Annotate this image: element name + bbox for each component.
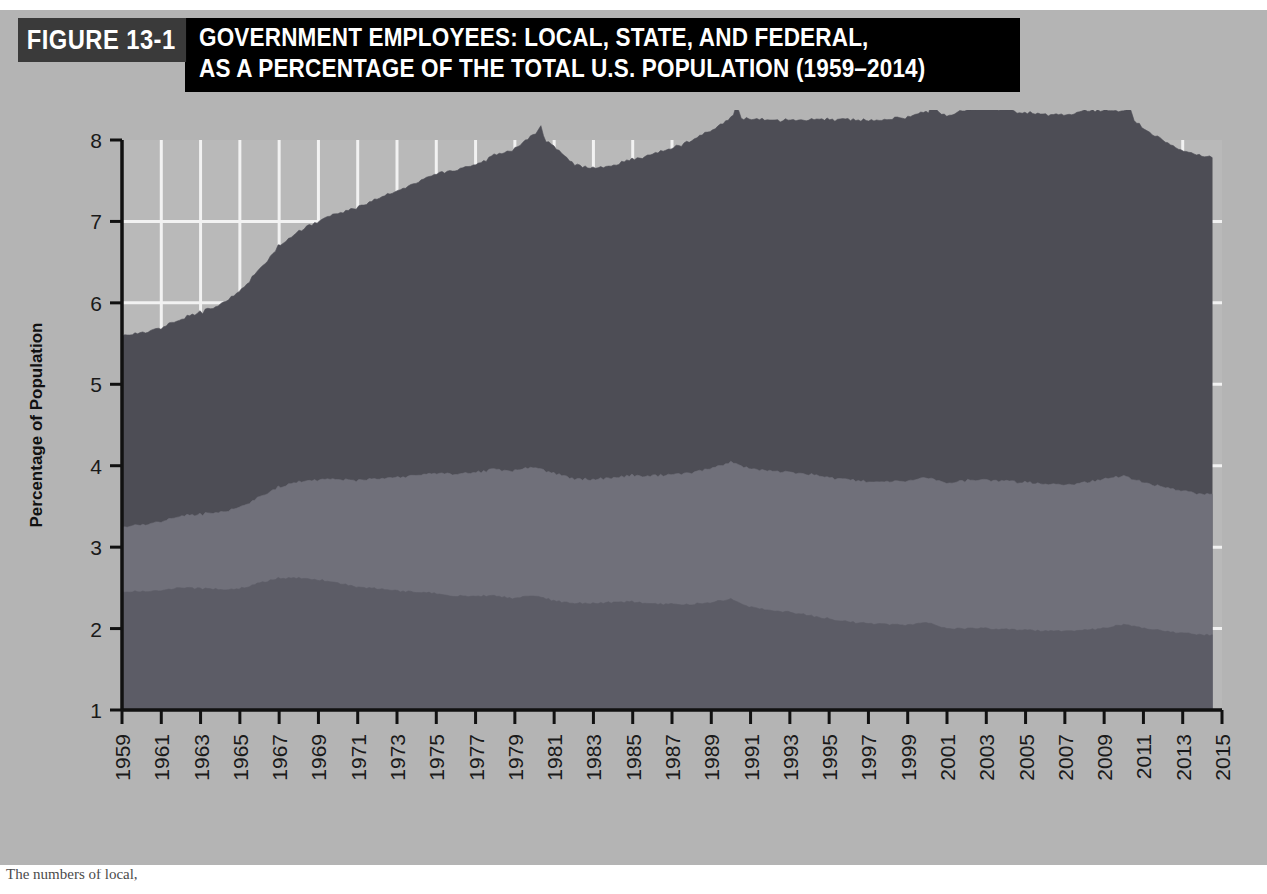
x-tick-label: 1979 xyxy=(504,734,527,781)
x-tick-label: 2005 xyxy=(1015,734,1038,781)
x-tick-label: 1991 xyxy=(740,734,763,781)
x-tick-label: 1969 xyxy=(307,734,330,781)
x-tick-label: 2003 xyxy=(975,734,998,781)
x-tick-label: 1959 xyxy=(111,734,134,781)
x-tick-label: 1997 xyxy=(857,734,880,781)
caption-text: The numbers of local, xyxy=(6,869,138,883)
y-tick-label: 1 xyxy=(90,699,102,722)
x-tick-label: 1995 xyxy=(818,734,841,781)
x-tick-label: 1967 xyxy=(268,734,291,781)
chart-area: 12345678 1959196119631965196719691971197… xyxy=(0,110,1267,870)
x-tick-label: 1985 xyxy=(622,734,645,781)
y-axis-title: Percentage of Population xyxy=(27,323,46,528)
x-tick-label: 2001 xyxy=(936,734,959,781)
x-tick-label: 1981 xyxy=(543,734,566,781)
stacked-area-chart: 12345678 1959196119631965196719691971197… xyxy=(0,110,1267,870)
x-tick-label: 1961 xyxy=(150,734,173,781)
figure-title-block: GOVERNMENT EMPLOYEES: LOCAL, STATE, AND … xyxy=(185,18,1020,92)
x-axis-ticks: 1959196119631965196719691971197319751977… xyxy=(111,710,1234,781)
x-tick-label: 2009 xyxy=(1093,734,1116,781)
figure-title-line-2: AS A PERCENTAGE OF THE TOTAL U.S. POPULA… xyxy=(199,53,925,84)
x-tick-label: 2007 xyxy=(1054,734,1077,781)
x-tick-label: 1977 xyxy=(465,734,488,781)
figure-root: FIGURE 13-1 GOVERNMENT EMPLOYEES: LOCAL,… xyxy=(0,0,1267,894)
figure-title-line-1: GOVERNMENT EMPLOYEES: LOCAL, STATE, AND … xyxy=(199,22,925,53)
x-tick-label: 1963 xyxy=(190,734,213,781)
x-tick-label: 1993 xyxy=(779,734,802,781)
y-tick-label: 8 xyxy=(90,129,102,152)
x-tick-label: 1965 xyxy=(229,734,252,781)
figure-title-banner: FIGURE 13-1 GOVERNMENT EMPLOYEES: LOCAL,… xyxy=(18,18,1020,92)
caption-strip: The numbers of local, xyxy=(0,869,1267,894)
x-tick-label: 1983 xyxy=(582,734,605,781)
y-tick-label: 6 xyxy=(90,292,102,315)
y-tick-label: 3 xyxy=(90,536,102,559)
x-tick-label: 1975 xyxy=(425,734,448,781)
x-tick-label: 1971 xyxy=(347,734,370,781)
x-tick-label: 1987 xyxy=(661,734,684,781)
x-tick-label: 2011 xyxy=(1132,734,1155,779)
y-tick-label: 2 xyxy=(90,618,102,641)
x-tick-label: 1973 xyxy=(386,734,409,781)
figure-number-label: FIGURE 13-1 xyxy=(18,18,186,62)
y-tick-label: 7 xyxy=(90,210,102,233)
x-tick-label: 1989 xyxy=(700,734,723,781)
x-tick-label: 2015 xyxy=(1211,734,1234,781)
y-axis-ticks: 12345678 xyxy=(90,129,122,722)
x-tick-label: 1999 xyxy=(897,734,920,781)
x-tick-label: 2013 xyxy=(1172,734,1195,781)
y-tick-label: 5 xyxy=(90,373,102,396)
y-tick-label: 4 xyxy=(90,455,102,478)
